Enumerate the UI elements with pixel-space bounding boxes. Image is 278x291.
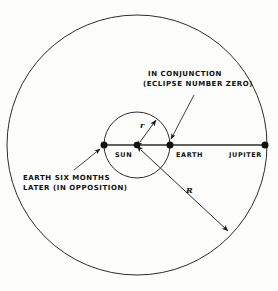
diagram-canvas: SUN EARTH JUPITER r R IN CONJUNCTION (EC… — [0, 0, 278, 291]
earth-label: EARTH — [176, 151, 203, 159]
conjunction-leader-line — [171, 95, 194, 139]
sun-marker — [134, 142, 141, 149]
earth-radius-label: r — [140, 120, 145, 130]
orbital-diagram: SUN EARTH JUPITER r R IN CONJUNCTION (EC… — [0, 0, 278, 291]
jupiter-radius-label: R — [185, 185, 193, 195]
jupiter-label: JUPITER — [228, 151, 262, 159]
earth-opposition-marker — [101, 142, 108, 149]
opposition-label-line2: LATER (IN OPPOSITION) — [23, 184, 128, 192]
conjunction-label-line1: IN CONJUNCTION — [148, 70, 222, 78]
jupiter-orbit-radius-arrow — [141, 150, 228, 231]
earth-marker — [167, 142, 174, 149]
conjunction-label-line2: (ECLIPSE NUMBER ZERO) — [143, 80, 253, 88]
opposition-leader-line — [74, 149, 100, 170]
sun-label: SUN — [115, 151, 132, 159]
opposition-label-line1: EARTH SIX MONTHS — [23, 174, 110, 182]
jupiter-marker — [262, 142, 269, 149]
